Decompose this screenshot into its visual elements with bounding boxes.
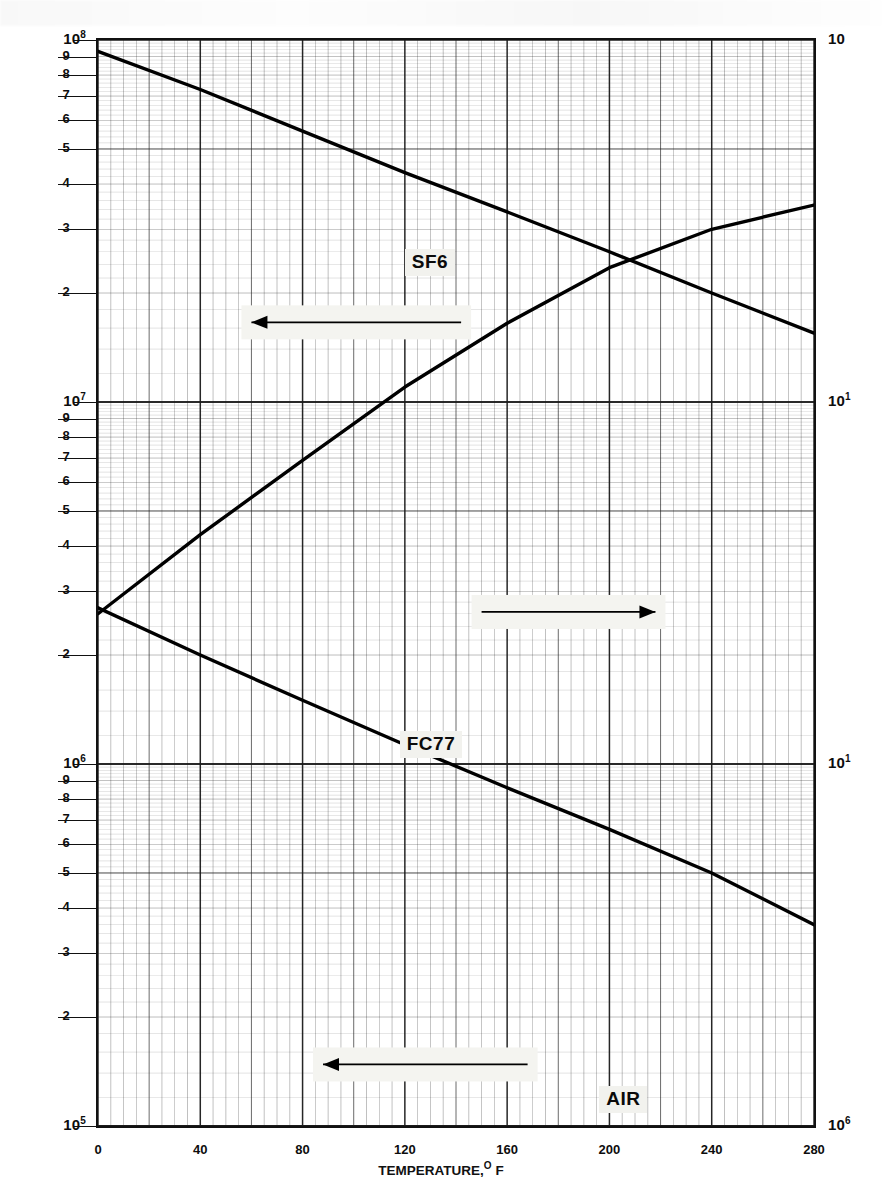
data-curves	[98, 40, 814, 1126]
y-left-minor-leader	[58, 655, 96, 656]
exponent: 6	[845, 1115, 851, 1126]
exponent: 8	[80, 29, 86, 40]
x-axis-title-degree: O	[484, 1160, 492, 1171]
x-tick-label-0: 0	[94, 1142, 101, 1157]
y-left-minor-leader	[58, 1017, 96, 1018]
y-left-minor-label-7e5: 7	[63, 811, 70, 826]
y-left-minor-label-8e6: 8	[63, 428, 70, 443]
y-left-minor-leader	[58, 482, 96, 483]
exponent: 1	[845, 391, 851, 402]
y-left-minor-leader	[58, 437, 96, 438]
y-left-minor-leader	[58, 96, 96, 97]
y-left-minor-leader	[58, 458, 96, 459]
x-tick-label-160: 160	[496, 1142, 518, 1157]
y-left-minor-leader	[58, 799, 96, 800]
mantissa: 10	[828, 30, 845, 47]
exponent: 7	[80, 391, 86, 402]
exponent: 5	[80, 1115, 86, 1126]
y-left-minor-label-4e5: 4	[63, 899, 70, 914]
exponent: 6	[80, 753, 86, 764]
y-left-minor-leader	[58, 591, 96, 592]
y-right-decade-label-1: 101	[828, 391, 851, 409]
x-axis-title: TEMPERATURE,O F	[378, 1160, 503, 1178]
y-left-minor-label-9e6: 9	[63, 410, 70, 425]
y-left-minor-leader	[58, 229, 96, 230]
y-left-minor-leader	[58, 149, 96, 150]
x-tick-label-280: 280	[803, 1142, 825, 1157]
y-left-minor-label-3e6: 3	[63, 582, 70, 597]
y-left-minor-label-7e6: 7	[63, 449, 70, 464]
y-left-minor-label-5e5: 5	[63, 864, 70, 879]
y-right-decade-label-3: 106	[828, 1115, 851, 1133]
mantissa: 10	[828, 392, 845, 409]
y-left-minor-leader	[58, 511, 96, 512]
y-left-minor-label-8e5: 8	[63, 790, 70, 805]
mantissa: 10	[63, 1116, 80, 1133]
y-left-minor-leader	[58, 546, 96, 547]
y-left-decade-leader	[74, 40, 96, 41]
y-left-minor-label-9e7: 9	[63, 48, 70, 63]
y-left-decade-label-5: 105	[63, 1115, 86, 1133]
mantissa: 10	[828, 1116, 845, 1133]
mantissa: 10	[63, 392, 80, 409]
y-left-minor-leader	[58, 75, 96, 76]
y-left-minor-label-2e5: 2	[63, 1008, 70, 1023]
y-left-minor-label-6e5: 6	[63, 835, 70, 850]
y-left-minor-label-4e6: 4	[63, 537, 70, 552]
y-left-minor-label-6e6: 6	[63, 473, 70, 488]
series-label-air: AIR	[599, 1086, 647, 1113]
y-left-minor-label-3e7: 3	[63, 220, 70, 235]
y-left-minor-leader	[58, 908, 96, 909]
log-log-chart-figure: 108107106105987654329876543298765432 101…	[0, 0, 882, 1193]
exponent: 1	[845, 753, 851, 764]
x-tick-label-40: 40	[193, 1142, 207, 1157]
y-left-minor-leader	[58, 57, 96, 58]
y-left-decade-label-8: 108	[63, 29, 86, 47]
y-left-decade-leader	[74, 1126, 96, 1127]
y-left-decade-leader	[74, 764, 96, 765]
y-left-minor-leader	[58, 844, 96, 845]
mantissa: 10	[828, 754, 845, 771]
y-left-minor-leader	[58, 873, 96, 874]
y-left-minor-label-8e7: 8	[63, 66, 70, 81]
y-right-decade-label-0: 10	[828, 29, 845, 47]
y-left-decade-label-6: 106	[63, 753, 86, 771]
y-left-minor-label-5e6: 5	[63, 502, 70, 517]
series-label-fc77: FC77	[400, 731, 462, 758]
y-left-minor-label-6e7: 6	[63, 111, 70, 126]
curve-fc77	[98, 205, 814, 614]
plot-area	[96, 38, 816, 1128]
curve-air	[98, 608, 814, 925]
y-left-minor-leader	[58, 953, 96, 954]
x-tick-label-80: 80	[295, 1142, 309, 1157]
x-tick-label-240: 240	[701, 1142, 723, 1157]
y-left-minor-leader	[58, 184, 96, 185]
y-left-decade-label-7: 107	[63, 391, 86, 409]
y-left-minor-leader	[58, 419, 96, 420]
mantissa: 10	[63, 754, 80, 771]
y-left-minor-label-7e7: 7	[63, 87, 70, 102]
y-left-minor-leader	[58, 293, 96, 294]
y-left-minor-leader	[58, 781, 96, 782]
y-right-decade-label-2: 101	[828, 753, 851, 771]
x-axis-title-main: TEMPERATURE,	[378, 1163, 484, 1178]
x-tick-label-200: 200	[599, 1142, 621, 1157]
y-left-minor-leader	[58, 120, 96, 121]
y-left-minor-label-2e6: 2	[63, 646, 70, 661]
y-left-minor-leader	[58, 820, 96, 821]
y-left-decade-leader	[74, 402, 96, 403]
y-left-minor-label-2e7: 2	[63, 284, 70, 299]
series-label-sf6: SF6	[405, 249, 455, 276]
y-left-minor-label-3e5: 3	[63, 944, 70, 959]
x-tick-label-120: 120	[394, 1142, 416, 1157]
y-left-minor-label-4e7: 4	[63, 175, 70, 190]
curve-sf6	[98, 51, 814, 333]
mantissa: 10	[63, 30, 80, 47]
y-left-minor-label-9e5: 9	[63, 772, 70, 787]
x-axis-title-unit: F	[495, 1163, 503, 1178]
y-left-minor-label-5e7: 5	[63, 140, 70, 155]
